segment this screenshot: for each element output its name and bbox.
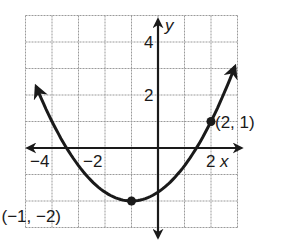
parabola-path [36, 67, 235, 201]
point-label: (2, 1) [215, 113, 255, 132]
x-tick-label: −4 [30, 152, 49, 171]
x-tick-label: 2 [206, 152, 215, 171]
parabola-curve [36, 67, 235, 201]
x-tick-label: −2 [83, 152, 102, 171]
point-marker [127, 197, 136, 206]
x-axis-label: x [219, 152, 229, 171]
grid [26, 16, 238, 228]
y-axis-label: y [164, 16, 175, 35]
y-tick-label: 2 [144, 86, 153, 105]
parabola-graph: (−1, −2)(2, 1) −4−2224xy [0, 0, 282, 242]
point-label: (−1, −2) [2, 207, 62, 226]
y-tick-label: 4 [144, 33, 153, 52]
axes [28, 20, 242, 238]
